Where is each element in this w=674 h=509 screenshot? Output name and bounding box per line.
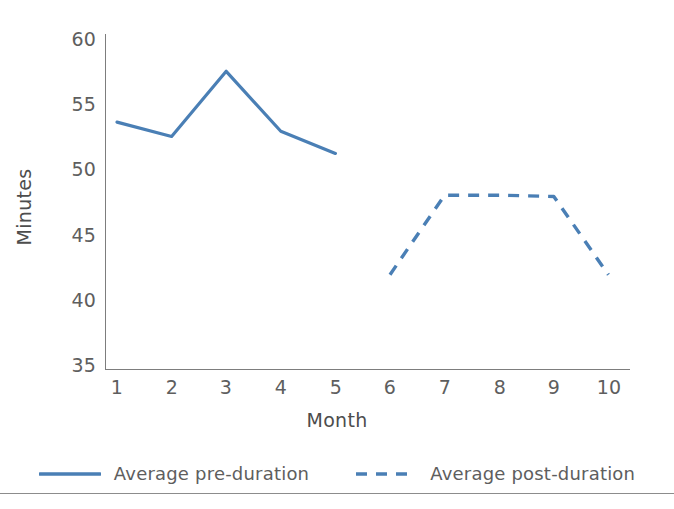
x-tick-label: 7 [425,378,465,397]
x-tick-label: 1 [97,378,137,397]
legend-label: Average post-duration [430,465,635,483]
x-tick-label: 10 [589,378,629,397]
series-line-average-pre-duration [117,71,335,153]
y-tick-label: 45 [50,226,96,245]
x-axis-line [105,369,630,370]
x-tick-label: 8 [480,378,520,397]
series-line-average-post-duration [390,195,608,275]
legend-swatch-solid-line [39,468,101,480]
series-plot [0,0,674,509]
legend-swatch-dashed-line [355,468,417,480]
y-axis-title: Minutes [13,147,35,267]
x-tick-label: 4 [261,378,301,397]
y-tick-label: 60 [50,30,96,49]
y-tick-label: 40 [50,291,96,310]
x-axis-title: Month [237,409,437,431]
y-tick-label: 55 [50,95,96,114]
x-tick-label: 5 [316,378,356,397]
y-tick-label: 35 [50,356,96,375]
y-tick-label: 50 [50,160,96,179]
y-axis-line [105,34,106,370]
y-axis-tick-labels: 60 55 50 45 40 35 [44,0,96,509]
x-tick-label: 9 [534,378,574,397]
legend-item-average-pre-duration: Average pre-duration [39,465,309,483]
footer-divider [0,493,674,494]
line-chart-figure: Minutes 60 55 50 45 40 35 1 2 3 4 5 6 7 … [0,0,674,509]
x-tick-label: 3 [206,378,246,397]
x-tick-label: 2 [152,378,192,397]
legend-label: Average pre-duration [114,465,309,483]
legend-item-average-post-duration: Average post-duration [355,465,635,483]
x-tick-label: 6 [370,378,410,397]
chart-legend: Average pre-duration Average post-durati… [0,459,674,489]
